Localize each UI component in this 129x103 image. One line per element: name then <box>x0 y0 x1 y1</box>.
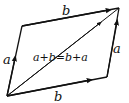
label-left-a: a <box>3 52 11 67</box>
label-bottom-b: b <box>54 89 62 103</box>
label-top-b: b <box>62 3 70 18</box>
parallelogram-diagram: b b a a a+b=b+a <box>0 0 129 103</box>
label-diagonal-sum: a+b=b+a <box>33 51 88 64</box>
label-right-a: a <box>113 41 121 56</box>
vector-b-top <box>22 8 119 26</box>
